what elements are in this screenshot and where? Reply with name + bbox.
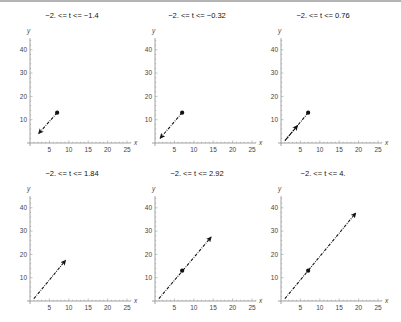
plot-panel: −2. <= t <= 0.7651015202510203040xy (271, 11, 389, 153)
x-tick-label: 5 (173, 304, 177, 311)
plot-grid: −2. <= t <= −1.451015202510203040xy−2. <… (0, 0, 401, 322)
x-tick-label: 5 (48, 146, 52, 153)
y-tick-label: 20 (145, 251, 153, 258)
y-tick-label: 10 (145, 116, 153, 123)
x-tick-label: 15 (210, 304, 218, 311)
trajectory-arrow (159, 237, 211, 299)
y-tick-label: 10 (20, 274, 28, 281)
x-axis-label: x (133, 297, 138, 304)
marked-point (306, 269, 310, 273)
x-tick-label: 15 (210, 146, 218, 153)
plot-title: −2. <= t <= 0.76 (296, 11, 349, 20)
x-tick-label: 10 (190, 304, 198, 311)
plot-title: −2. <= t <= −0.32 (168, 11, 226, 20)
y-tick-label: 10 (271, 116, 279, 123)
y-tick-label: 20 (145, 93, 153, 100)
x-tick-label: 5 (48, 304, 52, 311)
marked-point (306, 111, 310, 115)
marked-point (55, 111, 59, 115)
plot-title: −2. <= t <= −1.4 (45, 11, 98, 20)
trajectory-arrow (34, 260, 66, 298)
plot-panel: −2. <= t <= 1.8451015202510203040xy (20, 169, 138, 311)
x-tick-label: 20 (229, 146, 237, 153)
trajectory-arrow (285, 113, 308, 141)
x-tick-label: 10 (65, 146, 73, 153)
y-axis-label: y (26, 27, 31, 35)
x-axis-label: x (258, 139, 263, 146)
x-tick-label: 20 (104, 304, 112, 311)
x-tick-label: 20 (355, 146, 363, 153)
y-tick-label: 40 (145, 46, 153, 53)
y-tick-label: 40 (145, 204, 153, 211)
trajectory-arrow (285, 213, 356, 299)
x-tick-label: 10 (190, 146, 198, 153)
y-tick-label: 30 (20, 69, 28, 76)
x-tick-label: 25 (374, 304, 382, 311)
y-tick-label: 10 (145, 274, 153, 281)
y-tick-label: 40 (271, 46, 279, 53)
x-tick-label: 10 (316, 146, 324, 153)
x-tick-label: 25 (248, 146, 256, 153)
y-tick-label: 10 (20, 116, 28, 123)
x-tick-label: 20 (104, 146, 112, 153)
y-tick-label: 30 (145, 69, 153, 76)
x-tick-label: 15 (336, 146, 344, 153)
y-tick-label: 30 (271, 227, 279, 234)
x-axis-label: x (133, 139, 138, 146)
trajectory-arrow (39, 113, 58, 134)
plot-title: −2. <= t <= 4. (301, 169, 346, 178)
y-tick-label: 30 (145, 227, 153, 234)
x-tick-label: 15 (85, 146, 93, 153)
x-tick-label: 25 (123, 146, 131, 153)
y-tick-label: 20 (20, 93, 28, 100)
plot-panel: −2. <= t <= 4.51015202510203040xy (271, 169, 389, 311)
y-tick-label: 10 (271, 274, 279, 281)
plot-panel: −2. <= t <= 2.9251015202510203040xy (145, 169, 263, 311)
x-tick-label: 20 (229, 304, 237, 311)
x-axis-label: x (384, 297, 389, 304)
plot-title: −2. <= t <= 1.84 (45, 169, 98, 178)
y-tick-label: 20 (20, 251, 28, 258)
y-axis-label: y (26, 185, 31, 193)
y-tick-label: 40 (271, 204, 279, 211)
y-tick-label: 20 (271, 93, 279, 100)
plot-panel: −2. <= t <= −0.3251015202510203040xy (145, 11, 263, 153)
x-axis-label: x (384, 139, 389, 146)
x-tick-label: 5 (299, 146, 303, 153)
x-tick-label: 25 (248, 304, 256, 311)
trajectory-arrow (160, 113, 182, 139)
y-tick-label: 40 (20, 46, 28, 53)
y-tick-label: 40 (20, 204, 28, 211)
x-tick-label: 5 (173, 146, 177, 153)
x-tick-label: 15 (85, 304, 93, 311)
x-tick-label: 10 (316, 304, 324, 311)
x-axis-label: x (258, 297, 263, 304)
y-axis-label: y (151, 185, 156, 193)
x-tick-label: 20 (355, 304, 363, 311)
plot-title: −2. <= t <= 2.92 (170, 169, 223, 178)
y-tick-label: 30 (20, 227, 28, 234)
y-axis-label: y (277, 185, 282, 193)
y-axis-label: y (277, 27, 282, 35)
x-tick-label: 25 (123, 304, 131, 311)
marked-point (180, 111, 184, 115)
y-tick-label: 20 (271, 251, 279, 258)
x-tick-label: 15 (336, 304, 344, 311)
x-tick-label: 5 (299, 304, 303, 311)
plot-panel: −2. <= t <= −1.451015202510203040xy (20, 11, 138, 153)
y-axis-label: y (151, 27, 156, 35)
x-tick-label: 25 (374, 146, 382, 153)
x-tick-label: 10 (65, 304, 73, 311)
marked-point (180, 269, 184, 273)
y-tick-label: 30 (271, 69, 279, 76)
